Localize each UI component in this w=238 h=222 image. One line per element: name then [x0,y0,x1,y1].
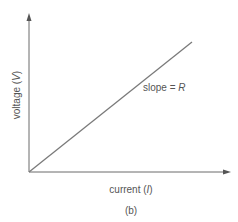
figure-caption: (b) [125,205,137,216]
y-axis-label: voltage (V) [11,71,22,119]
voltage-current-line [29,42,192,172]
slope-annotation: slope = R [143,82,186,93]
y-axis-arrow-icon [27,13,32,21]
x-axis-arrow-icon [223,170,231,175]
x-axis-label: current (I) [109,184,152,195]
